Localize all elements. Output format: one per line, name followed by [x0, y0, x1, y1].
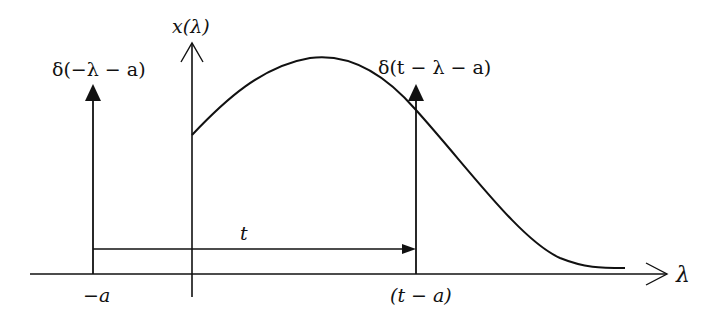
impulse-left-label: δ(−λ − a): [52, 58, 146, 80]
impulse-left-arrowhead-icon: [85, 84, 101, 101]
convolution-diagram: λ x(λ) δ(−λ − a) −a δ(t − λ − a) (t − a)…: [0, 0, 714, 321]
signal-curve: [192, 57, 625, 268]
shift-arrow: [93, 244, 416, 254]
impulse-left: [85, 84, 101, 274]
impulse-right-arrowhead-icon: [408, 84, 424, 101]
lambda-axis-label: λ: [675, 262, 690, 287]
shift-arrow-label: t: [240, 222, 248, 244]
impulse-right-position-label: (t − a): [390, 284, 452, 306]
lambda-axis: [30, 263, 667, 285]
x-axis-vertical: [181, 43, 203, 297]
shift-arrowhead-icon: [402, 244, 416, 254]
impulse-right-label: δ(t − λ − a): [378, 56, 491, 78]
impulse-right: [408, 84, 424, 274]
vertical-axis-label: x(λ): [172, 15, 210, 37]
impulse-left-position-label: −a: [83, 284, 110, 306]
